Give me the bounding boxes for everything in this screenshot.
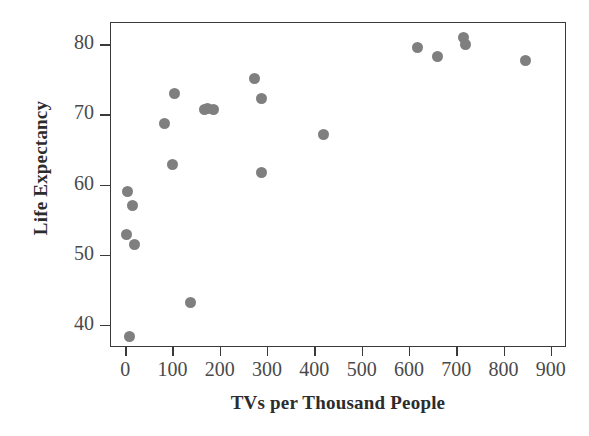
data-point — [127, 200, 138, 211]
x-axis-tick — [504, 347, 505, 356]
x-axis-tick — [220, 347, 221, 356]
x-axis-tick — [362, 347, 363, 356]
data-point — [460, 39, 471, 50]
x-axis-title: TVs per Thousand People — [110, 392, 566, 414]
y-axis-tick — [100, 325, 110, 326]
y-axis-tick — [100, 255, 110, 256]
x-axis-tick — [456, 347, 457, 356]
data-point — [167, 159, 178, 170]
x-axis-tick-label: 900 — [521, 358, 581, 381]
data-point — [256, 93, 267, 104]
data-point — [169, 88, 180, 99]
data-point — [121, 229, 132, 240]
scatter-chart-figure: 01002003004005006007008009004050607080 T… — [0, 0, 589, 436]
data-point — [185, 297, 196, 308]
plot-area — [110, 22, 566, 347]
data-point — [124, 331, 135, 342]
y-axis-title: Life Expectancy — [30, 101, 51, 235]
data-point — [122, 186, 133, 197]
data-point — [249, 73, 260, 84]
x-axis-tick — [125, 347, 126, 356]
data-point — [159, 118, 170, 129]
data-point — [256, 167, 267, 178]
x-axis-tick — [551, 347, 552, 356]
y-axis-tick — [100, 114, 110, 115]
y-axis-tick — [100, 44, 110, 45]
x-axis-tick — [267, 347, 268, 356]
data-point — [432, 51, 443, 62]
data-point — [318, 129, 329, 140]
x-axis-tick — [409, 347, 410, 356]
data-point — [520, 55, 531, 66]
x-axis-tick — [172, 347, 173, 356]
y-axis-title-wrapper: Life Expectancy — [30, 3, 52, 333]
data-point — [208, 104, 219, 115]
data-points-layer — [111, 23, 565, 346]
data-point — [412, 42, 423, 53]
y-axis-tick — [100, 185, 110, 186]
x-axis-tick — [314, 347, 315, 356]
data-point — [129, 239, 140, 250]
